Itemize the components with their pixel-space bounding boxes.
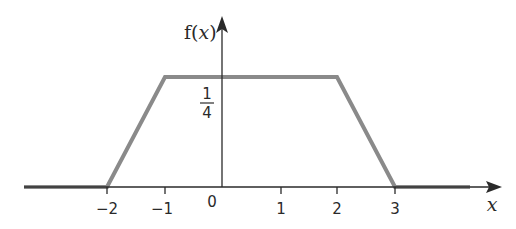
x-axis-label: x	[487, 193, 498, 215]
trapezoid-curve	[24, 77, 470, 187]
tick-label-3: 3	[390, 200, 400, 218]
y-tick-denominator: 4	[202, 104, 212, 122]
tick-label-2: 2	[332, 200, 342, 218]
tick-label-0: 0	[207, 193, 217, 211]
y-axis-label: f(x)	[184, 21, 217, 43]
tick-label-1: 1	[276, 200, 286, 218]
function-plot: −2 −1 0 1 2 3 1 4 f(x) x	[0, 0, 516, 229]
y-tick-numerator: 1	[202, 85, 212, 103]
x-ticks	[107, 187, 395, 194]
tick-label-neg1: −1	[151, 200, 173, 218]
tick-label-neg2: −2	[96, 200, 118, 218]
